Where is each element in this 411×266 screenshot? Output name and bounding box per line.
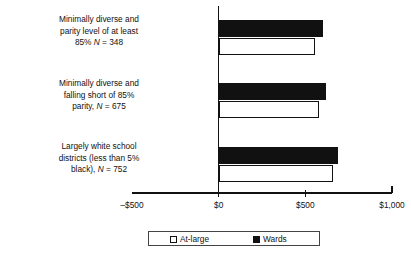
- legend-item-at-large: At-large: [170, 234, 209, 244]
- legend-swatch-wards-icon: [253, 236, 260, 243]
- x-tick-label-1: $0: [189, 200, 249, 210]
- legend-swatch-at-large-icon: [170, 236, 177, 243]
- x-tick-3: [391, 186, 393, 193]
- bar-at-large-1: [219, 101, 320, 118]
- chart-container: Minimally diverse and parity level of at…: [0, 0, 411, 266]
- bar-wards-0: [219, 20, 323, 37]
- x-tick-label-2: $500: [275, 200, 335, 210]
- x-axis-line: [132, 192, 392, 194]
- legend-label-at-large: At-large: [180, 234, 209, 244]
- bar-wards-1: [219, 83, 326, 100]
- legend-label-wards: Wards: [263, 234, 287, 244]
- x-tick-label-3: $1,000: [362, 200, 411, 210]
- bar-at-large-2: [219, 165, 333, 182]
- x-tick-1: [218, 190, 220, 197]
- x-tick-2: [305, 190, 307, 197]
- legend-item-wards: Wards: [253, 234, 287, 244]
- x-tick-label-0: –$500: [102, 200, 162, 210]
- bar-at-large-0: [219, 38, 315, 55]
- bar-wards-2: [219, 147, 338, 164]
- plot-area: –$500$0$500$1,000: [132, 6, 392, 192]
- chart-legend: At-large Wards: [148, 231, 320, 246]
